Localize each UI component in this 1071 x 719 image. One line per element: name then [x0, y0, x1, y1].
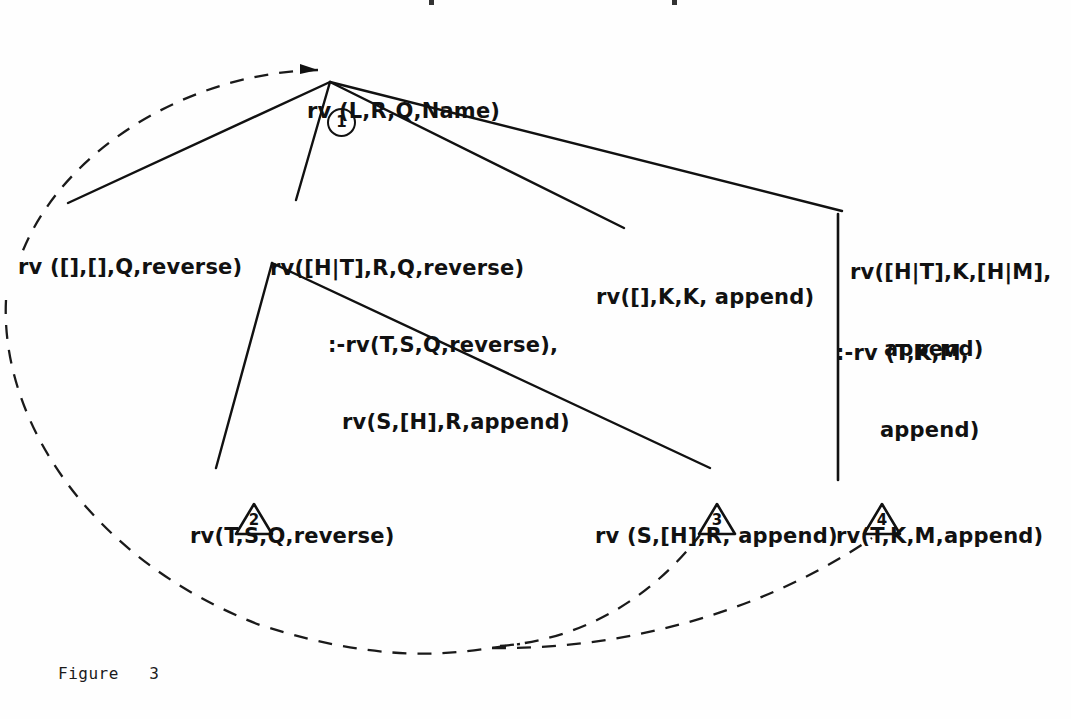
marker-1-label: 1: [336, 115, 346, 130]
marker-2: 2: [234, 502, 274, 536]
marker-4: 4: [862, 502, 902, 536]
figure-canvas: rv (L,R,Q,Name) 1 rv ([],[],Q,reverse) r…: [0, 0, 1071, 719]
marker-3: 3: [697, 502, 737, 536]
node-clause-append-rec-body-line1: :-rv (T,K,M,: [836, 341, 979, 367]
marker-4-label: 4: [862, 513, 902, 528]
scan-speck-right: [672, 0, 677, 5]
figure-caption: Figure 3: [58, 664, 159, 683]
node-clause-reverse-base-label: rv ([],[],Q,reverse): [18, 255, 242, 281]
node-clause-reverse-rec-line3: rv(S,[H],R,append): [270, 410, 570, 436]
node-goal-reverse: rv(T,S,Q,reverse): [190, 473, 395, 601]
node-clause-reverse-rec: rv([H|T],R,Q,reverse) :-rv(T,S,Q,reverse…: [270, 205, 570, 487]
node-clause-reverse-base: rv ([],[],Q,reverse): [18, 204, 242, 332]
node-goal-append-2: rv(T,K,M,append): [836, 473, 1043, 601]
marker-3-label: 3: [697, 513, 737, 528]
node-clause-append-rec-body: :-rv (T,K,M, append): [836, 290, 979, 495]
edge-root-to-reverse-base: [68, 82, 330, 203]
node-goal-reverse-label: rv(T,S,Q,reverse): [190, 524, 395, 550]
node-clause-reverse-rec-line2: :-rv(T,S,Q,reverse),: [270, 333, 570, 359]
node-clause-append-rec-body-line2: append): [836, 418, 979, 444]
node-clause-append-rec-line1: rv([H|T],K,[H|M],: [850, 260, 1051, 286]
node-goal-append-1: rv (S,[H],R, append): [595, 473, 838, 601]
scan-speck-left: [429, 0, 434, 5]
node-clause-reverse-rec-line1: rv([H|T],R,Q,reverse): [270, 256, 570, 282]
node-clause-append-base-label: rv([],K,K, append): [596, 285, 814, 311]
node-clause-append-base: rv([],K,K, append): [596, 234, 814, 362]
marker-2-label: 2: [234, 513, 274, 528]
marker-1: 1: [327, 108, 356, 137]
